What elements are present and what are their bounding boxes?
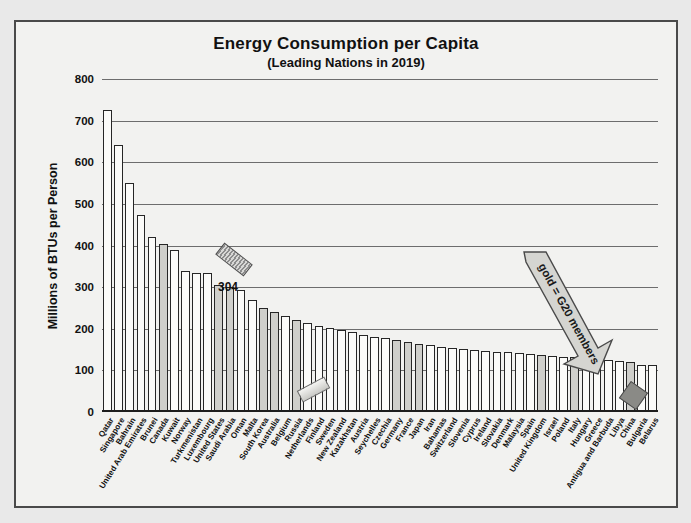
bar-slot [124,79,135,412]
x-axis-line [102,410,658,412]
bar-slot [436,79,447,412]
bar[interactable] [203,273,212,412]
bar[interactable] [370,337,379,412]
bar[interactable] [381,338,390,412]
bar-slot [269,79,280,412]
x-label-slot: Belarus [647,414,658,523]
bar-slot [102,79,113,412]
y-axis-tick: 0 [88,406,94,418]
bar-slot [625,79,636,412]
bar[interactable] [481,351,490,412]
bar-slot [135,79,146,412]
bar[interactable] [281,316,290,412]
bar[interactable] [226,287,235,412]
bar-slot [158,79,169,412]
g20-annotation-arrow: gold = G20 members [512,248,622,378]
bar-slot [113,79,124,412]
y-axis-tick: 100 [75,364,94,376]
bar[interactable] [493,352,502,412]
bar-slot [291,79,302,412]
bar-slot [391,79,402,412]
chart-title: Energy Consumption per Capita [16,34,676,54]
y-axis-tick: 300 [75,281,94,293]
bar-slot [647,79,658,412]
bar-slot [191,79,202,412]
bar[interactable] [270,312,279,412]
bar[interactable] [315,326,324,412]
y-axis-tick: 700 [75,115,94,127]
value-callout-304: 304 [218,280,238,294]
bar[interactable] [103,110,112,412]
bar-slot [402,79,413,412]
y-axis-tick: 800 [75,73,94,85]
x-label-slot: Japan [414,414,425,523]
y-axis-label-text: Millions of BTUs per Person [46,162,60,329]
bar[interactable] [415,344,424,412]
g20-arrow-text: gold = G20 members [536,261,601,366]
y-axis-tick: 500 [75,198,94,210]
bar-slot [425,79,436,412]
bar-slot [313,79,324,412]
bar-slot [180,79,191,412]
chart-frame: Energy Consumption per Capita (Leading N… [14,20,678,508]
bar[interactable] [248,300,257,412]
bar-slot [369,79,380,412]
bar[interactable] [426,345,435,412]
bar[interactable] [448,348,457,412]
y-axis-tick: 400 [75,240,94,252]
bar[interactable] [470,350,479,412]
bar-slot [491,79,502,412]
bar-slot [258,79,269,412]
bar[interactable] [648,365,657,412]
y-axis-label: Millions of BTUs per Person [44,79,62,412]
x-axis-tick-labels: QatarSingaporeBahrainUnited Arab Emirate… [102,414,658,523]
bar[interactable] [181,271,190,412]
bar-slot [325,79,336,412]
bar-slot [358,79,369,412]
bar-slot [247,79,258,412]
bar[interactable] [259,308,268,412]
bar[interactable] [192,273,201,412]
chart-subtitle: (Leading Nations in 2019) [16,55,676,70]
bar-slot [480,79,491,412]
bar-slot [147,79,158,412]
bar-slot [458,79,469,412]
bar[interactable] [337,330,346,412]
bar[interactable] [159,244,168,412]
bar-slot [414,79,425,412]
bar[interactable] [125,183,134,412]
y-axis-tick: 600 [75,156,94,168]
bar[interactable] [392,340,401,412]
bar-slot [380,79,391,412]
bar[interactable] [348,332,357,412]
bar-slot [336,79,347,412]
bar[interactable] [404,342,413,412]
bar[interactable] [170,250,179,412]
bar[interactable] [359,335,368,412]
bar-slot [302,79,313,412]
bar-slot [347,79,358,412]
bar[interactable] [437,347,446,412]
bar[interactable] [148,237,157,412]
bar-slot [236,79,247,412]
bar[interactable] [459,349,468,412]
bar-slot [447,79,458,412]
bar[interactable] [137,215,146,412]
bar-slot [469,79,480,412]
bar[interactable] [214,285,223,412]
bar[interactable] [326,328,335,412]
bar-slot [280,79,291,412]
bar-slot [169,79,180,412]
bar[interactable] [114,145,123,412]
bar[interactable] [237,290,246,412]
y-axis-tick: 200 [75,323,94,335]
bar-slot [202,79,213,412]
bar-slot [636,79,647,412]
